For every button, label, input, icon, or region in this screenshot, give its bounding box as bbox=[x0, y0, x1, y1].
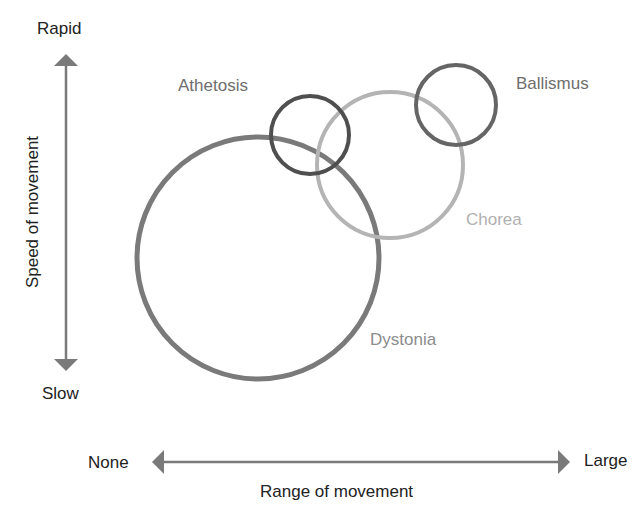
y-axis-arrow bbox=[54, 54, 78, 371]
arrow-down-icon bbox=[54, 359, 78, 371]
label-chorea: Chorea bbox=[466, 211, 522, 228]
label-athetosis: Athetosis bbox=[178, 77, 248, 94]
arrow-up-icon bbox=[54, 54, 78, 66]
x-axis-right-label: Large bbox=[584, 452, 627, 469]
circle-athetosis bbox=[271, 96, 349, 174]
arrow-right-icon bbox=[558, 450, 570, 474]
x-axis-title: Range of movement bbox=[260, 483, 413, 500]
y-axis-bottom-label: Slow bbox=[42, 385, 79, 402]
x-axis-left-label: None bbox=[88, 454, 129, 471]
y-axis-top-label: Rapid bbox=[37, 20, 81, 37]
label-dystonia: Dystonia bbox=[370, 331, 436, 348]
x-axis-arrow bbox=[152, 450, 570, 474]
circle-dystonia bbox=[137, 137, 379, 379]
y-axis-title: Speed of movement bbox=[23, 136, 43, 288]
label-ballismus: Ballismus bbox=[516, 75, 589, 92]
arrow-left-icon bbox=[152, 450, 164, 474]
